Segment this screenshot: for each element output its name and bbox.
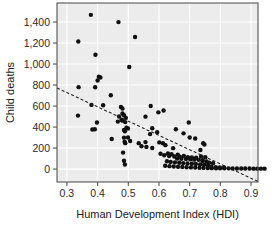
data-point: [201, 166, 205, 170]
data-point: [190, 162, 194, 166]
data-point: [149, 104, 153, 108]
data-point: [167, 154, 171, 158]
y-axis-title: Child deaths: [4, 61, 16, 123]
data-point: [101, 103, 105, 107]
data-point: [120, 106, 124, 110]
data-point: [156, 110, 160, 114]
data-point: [175, 156, 179, 160]
data-point: [116, 119, 120, 123]
data-point: [187, 120, 191, 124]
data-point: [165, 159, 169, 163]
data-point: [123, 141, 127, 145]
data-point: [116, 20, 120, 24]
plot-background-group: [57, 3, 258, 182]
x-tick-label: 0.6: [152, 187, 167, 199]
data-point: [122, 135, 126, 139]
data-point: [198, 148, 202, 152]
y-tick-label: 0: [44, 163, 50, 175]
data-point: [179, 157, 183, 161]
data-point: [90, 127, 94, 131]
data-point: [139, 144, 143, 148]
data-point: [197, 166, 201, 170]
scatter-chart-figure: 0.30.40.50.60.70.80.9 02004006008001,000…: [0, 0, 272, 235]
data-point: [123, 120, 127, 124]
data-point: [202, 142, 206, 146]
data-point: [93, 53, 97, 57]
y-tick-label: 1,000: [24, 58, 50, 70]
data-point: [180, 165, 184, 169]
data-point: [176, 165, 180, 169]
data-point: [193, 136, 197, 140]
data-point: [239, 166, 243, 170]
data-point: [167, 164, 171, 168]
data-point: [123, 129, 127, 133]
data-point: [177, 161, 181, 165]
data-point: [188, 157, 192, 161]
data-point: [155, 130, 159, 134]
data-point: [184, 165, 188, 169]
data-point: [95, 120, 99, 124]
data-point: [150, 146, 154, 150]
data-point: [144, 145, 148, 149]
data-point: [93, 85, 97, 89]
x-tick-label: 0.4: [90, 187, 105, 199]
data-point: [128, 139, 132, 143]
data-point: [214, 165, 218, 169]
data-point: [95, 78, 99, 82]
data-point: [184, 157, 188, 161]
data-point: [235, 166, 239, 170]
x-axis-ticks: 0.30.40.50.60.70.80.9: [60, 182, 259, 199]
data-point: [204, 159, 208, 163]
data-point: [181, 131, 185, 135]
data-point: [121, 150, 125, 154]
data-point: [109, 93, 113, 97]
data-point: [173, 160, 177, 164]
data-point: [218, 165, 222, 169]
data-point: [123, 162, 127, 166]
data-point: [243, 166, 247, 170]
data-point: [262, 166, 266, 170]
data-point: [163, 143, 167, 147]
data-point: [143, 140, 147, 144]
data-point: [185, 161, 189, 165]
data-point: [89, 13, 93, 17]
data-point: [174, 127, 178, 131]
x-tick-label: 0.8: [213, 187, 228, 199]
x-tick-label: 0.7: [182, 187, 197, 199]
x-tick-label: 0.9: [244, 187, 259, 199]
data-point: [187, 135, 191, 139]
data-point: [133, 35, 137, 39]
data-point: [200, 159, 204, 163]
data-point: [163, 164, 167, 168]
data-point: [193, 165, 197, 169]
data-point: [192, 157, 196, 161]
chart-canvas: 0.30.40.50.60.70.80.9 02004006008001,000…: [0, 0, 272, 235]
data-point: [171, 146, 175, 150]
data-point: [161, 108, 165, 112]
data-point: [247, 166, 251, 170]
y-tick-label: 800: [32, 79, 50, 91]
y-tick-label: 1,400: [24, 16, 50, 28]
y-tick-label: 1,200: [24, 37, 50, 49]
data-point: [110, 137, 114, 141]
data-point: [76, 85, 80, 89]
data-point: [150, 126, 154, 130]
x-tick-label: 0.3: [60, 187, 75, 199]
x-axis-title: Human Development Index (HDI): [76, 208, 239, 220]
y-tick-label: 600: [32, 100, 50, 112]
data-point: [189, 165, 193, 169]
data-point: [76, 113, 80, 117]
data-point: [162, 153, 166, 157]
plot-area-background: [57, 3, 258, 182]
y-tick-label: 400: [32, 121, 50, 133]
data-point: [76, 39, 80, 43]
y-axis-ticks: 02004006008001,0001,2001,400: [24, 16, 57, 175]
data-point: [143, 114, 147, 118]
y-tick-label: 200: [32, 142, 50, 154]
data-point: [122, 159, 126, 163]
x-tick-label: 0.5: [121, 187, 136, 199]
data-point: [127, 65, 131, 69]
data-point: [157, 140, 161, 144]
data-point: [168, 160, 172, 164]
data-point: [181, 161, 185, 165]
